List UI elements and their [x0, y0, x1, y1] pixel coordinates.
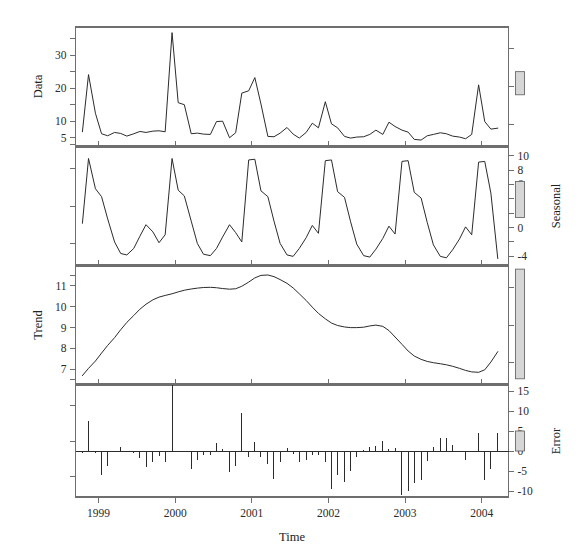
scale-bar-seasonal — [516, 182, 525, 218]
panel-seasonal: 1086420-4 — [76, 147, 530, 265]
panel-title-data: Data — [31, 74, 45, 98]
panel-title-trend: Trend — [31, 310, 45, 340]
scale-bar-trend — [516, 269, 525, 379]
scale-bar-error — [516, 431, 525, 451]
y-ticklabel-data: 10 — [55, 115, 67, 127]
series-line-trend — [82, 275, 497, 376]
plot-canvas: 5102030Data1086420-4Seasonal1110987Trend… — [0, 0, 578, 555]
x-ticklabel: 2002 — [317, 507, 340, 519]
panel-trend: 1110987 — [55, 266, 509, 384]
x-ticklabel: 2000 — [164, 507, 187, 519]
panel-data: 5102030 — [55, 27, 509, 146]
y-ticklabel-data: 20 — [55, 82, 67, 94]
y-ticklabel-trend: 8 — [61, 342, 67, 354]
x-axis-title: Time — [279, 530, 305, 544]
y-ticklabel-trend: 11 — [55, 280, 66, 292]
panel-title-error: Error — [549, 427, 563, 454]
series-line-seasonal — [82, 159, 497, 259]
x-ticklabel: 2004 — [470, 507, 493, 519]
y-ticklabel-seasonal: 8 — [518, 164, 524, 176]
y-ticklabel-error: -10 — [518, 485, 534, 497]
y-ticklabel-trend: 7 — [61, 363, 67, 375]
x-ticklabel: 2001 — [240, 507, 263, 519]
panel-frame-seasonal — [76, 147, 509, 265]
y-ticklabel-seasonal: 10 — [518, 150, 530, 162]
y-ticklabel-error: -5 — [518, 465, 528, 477]
decomposition-figure: 5102030Data1086420-4Seasonal1110987Trend… — [0, 0, 578, 555]
y-ticklabel-data: 5 — [61, 132, 67, 144]
panel-frame-trend — [76, 266, 509, 384]
panel-error: 151050-5-10 — [76, 385, 534, 503]
y-ticklabel-data: 30 — [55, 49, 67, 61]
y-ticklabel-seasonal: 0 — [518, 222, 524, 234]
series-line-data — [82, 33, 497, 140]
x-ticklabel: 2003 — [394, 507, 417, 519]
y-ticklabel-seasonal: -4 — [518, 250, 528, 262]
panel-title-seasonal: Seasonal — [549, 183, 563, 228]
x-ticklabel: 1999 — [87, 507, 110, 519]
panel-frame-data — [76, 27, 509, 146]
y-ticklabel-trend: 9 — [61, 322, 67, 334]
panel-frame-error — [76, 385, 509, 497]
y-ticklabel-error: 10 — [518, 405, 530, 417]
y-ticklabel-error: 15 — [518, 385, 530, 397]
scale-bar-data — [516, 72, 525, 95]
y-ticklabel-trend: 10 — [55, 301, 67, 313]
